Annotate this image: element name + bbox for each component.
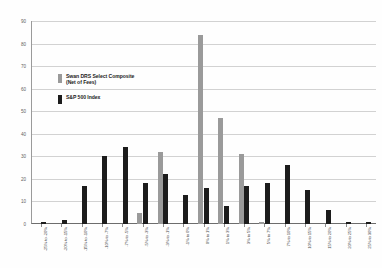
y-tick-label: 40 [21,131,26,136]
x-tick-label: -3% to -1% [165,227,170,247]
bar [102,156,107,224]
x-tick-label: -15% to -10% [83,227,88,251]
histogram-chart: 0102030405060708090 -25% to -20%-20% to … [0,0,382,268]
bar [244,186,249,224]
bar [265,183,270,224]
y-tick-label: 60 [21,86,26,91]
bar [158,152,163,224]
bar-group [112,21,132,224]
x-tick-label: 15% to 20% [327,227,332,249]
bars-layer [31,21,376,224]
y-tick-label: 50 [21,109,26,114]
bar-group [31,21,51,224]
bar [285,165,290,224]
bar [123,147,128,224]
x-tick-label: -7% to -5% [124,227,129,247]
y-tick-label: 70 [21,64,26,69]
bar [137,213,142,224]
bar [218,118,223,224]
bar-group [153,21,173,224]
bar [204,188,209,224]
bar-group [92,21,112,224]
y-axis-labels: 0102030405060708090 [0,21,29,224]
x-tick-label: 3% to 5% [246,227,251,244]
bar-group [234,21,254,224]
bar [224,206,229,224]
chart-legend: Swan DRS Select Composite (Net of Fees) … [58,73,178,113]
legend-swatch-swan-icon [58,74,62,83]
x-tick-label: 0% to 1% [205,227,210,244]
bar-group [315,21,335,224]
bar-group [193,21,213,224]
y-tick-label: 30 [21,154,26,159]
x-tick-label: -20% to -15% [63,227,68,251]
bar [163,174,168,224]
legend-label-swan: Swan DRS Select Composite (Net of Fees) [66,73,134,85]
x-tick-label: -10% to -7% [104,227,109,249]
bar [183,195,188,224]
x-tick-label: 25% to 30% [367,227,372,249]
x-tick-label: 7% to 10% [286,227,291,246]
legend-label-swan-line2: (Net of Fees) [66,79,96,85]
legend-label-swan-line1: Swan DRS Select Composite [66,73,134,79]
legend-label-spx: S&P 500 Index [66,94,100,100]
bar-group [254,21,274,224]
y-tick-label: 10 [21,199,26,204]
x-tick-label: 5% to 7% [266,227,271,244]
y-tick-label: 0 [23,222,26,227]
bar [198,35,203,224]
y-tick-label: 20 [21,176,26,181]
bar-group [275,21,295,224]
bar [143,183,148,224]
x-axis-labels: -25% to -20%-20% to -15%-15% to -10%-10%… [31,227,376,268]
bar [326,210,331,224]
y-tick-label: 90 [21,19,26,24]
legend-swatch-spx-icon [58,95,62,104]
bar-group [295,21,315,224]
bar-group [173,21,193,224]
bar-group [72,21,92,224]
bar [305,190,310,224]
bar-group [356,21,376,224]
bar [82,186,87,224]
bar-group [214,21,234,224]
legend-item-swan: Swan DRS Select Composite (Net of Fees) [58,73,178,85]
bar-group [132,21,152,224]
x-tick-label: 20% to 25% [347,227,352,249]
x-tick-label: -5% to -3% [144,227,149,247]
x-tick-label: 1% to 3% [225,227,230,244]
x-tick-label: 10% to 15% [307,227,312,249]
bar [239,154,244,224]
bar-group [51,21,71,224]
y-tick-label: 80 [21,41,26,46]
bar-group [335,21,355,224]
legend-item-spx: S&P 500 Index [58,94,178,104]
x-tick-label: -25% to -20% [43,227,48,251]
x-tick-label: -1% to 0% [185,227,190,245]
